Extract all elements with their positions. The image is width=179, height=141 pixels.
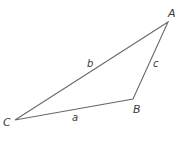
vertex-label-b: B	[133, 103, 141, 116]
triangle-abc	[15, 22, 168, 120]
side-label-c: c	[153, 58, 159, 69]
triangle-diagram: A B C a b c	[0, 0, 179, 141]
vertex-label-c: C	[3, 116, 11, 129]
side-label-b: b	[87, 58, 93, 69]
side-label-a: a	[72, 112, 78, 123]
vertex-label-a: A	[167, 7, 176, 20]
